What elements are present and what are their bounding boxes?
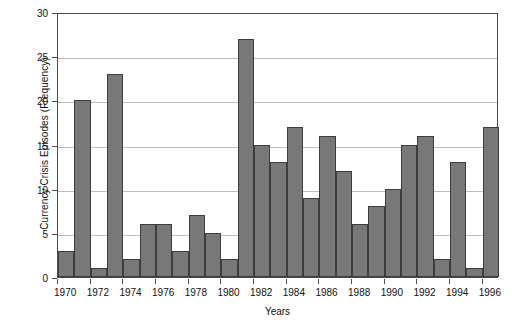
x-axis-tick-mark bbox=[253, 279, 254, 284]
bar bbox=[368, 206, 384, 277]
bar bbox=[58, 251, 74, 278]
bar bbox=[466, 268, 482, 277]
bar bbox=[156, 224, 172, 277]
gridline bbox=[58, 102, 497, 103]
y-axis-tick-label: 10 bbox=[8, 184, 48, 195]
x-axis-title: Years bbox=[57, 306, 498, 317]
bar bbox=[450, 162, 466, 277]
bar bbox=[221, 259, 237, 277]
gridline bbox=[58, 58, 497, 59]
y-axis-tick-label: 5 bbox=[8, 228, 48, 239]
bar bbox=[401, 145, 417, 278]
bar bbox=[91, 268, 107, 277]
x-axis-tick-mark bbox=[220, 279, 221, 284]
x-axis-tick-mark bbox=[482, 279, 483, 284]
bar bbox=[107, 74, 123, 277]
x-axis-tick-mark bbox=[449, 279, 450, 284]
x-axis-tick-mark bbox=[155, 279, 156, 284]
bar bbox=[483, 127, 499, 277]
y-axis-tick-label: 25 bbox=[8, 52, 48, 63]
y-axis-tick-label: 0 bbox=[8, 273, 48, 284]
bar bbox=[287, 127, 303, 277]
x-axis-tick-mark bbox=[416, 279, 417, 284]
bar bbox=[417, 136, 433, 277]
bar bbox=[238, 39, 254, 278]
x-axis-tick-label: 1996 bbox=[470, 287, 510, 298]
bar bbox=[336, 171, 352, 277]
bar bbox=[123, 259, 139, 277]
x-axis-tick-mark bbox=[384, 279, 385, 284]
x-axis-tick-mark bbox=[57, 279, 58, 284]
y-axis-tick-label: 30 bbox=[8, 8, 48, 19]
plot-area bbox=[57, 13, 498, 278]
y-axis-tick-label: 20 bbox=[8, 96, 48, 107]
bar bbox=[189, 215, 205, 277]
bar bbox=[303, 198, 319, 278]
x-axis-tick-mark bbox=[286, 279, 287, 284]
x-axis-tick-mark bbox=[351, 279, 352, 284]
bar bbox=[434, 259, 450, 277]
x-axis-tick-mark bbox=[188, 279, 189, 284]
x-axis-tick-mark bbox=[318, 279, 319, 284]
bar bbox=[140, 224, 156, 277]
bar bbox=[385, 189, 401, 277]
bar bbox=[352, 224, 368, 277]
y-axis-tick-label: 15 bbox=[8, 140, 48, 151]
bar bbox=[270, 162, 286, 277]
x-axis-tick-mark bbox=[90, 279, 91, 284]
x-axis-tick-mark bbox=[122, 279, 123, 284]
bar bbox=[254, 145, 270, 278]
bar bbox=[205, 233, 221, 277]
bar bbox=[74, 100, 90, 277]
bar bbox=[172, 251, 188, 278]
bar-chart: Currency Crisis Episodes (Frequency) 051… bbox=[0, 0, 512, 332]
bar bbox=[319, 136, 335, 277]
